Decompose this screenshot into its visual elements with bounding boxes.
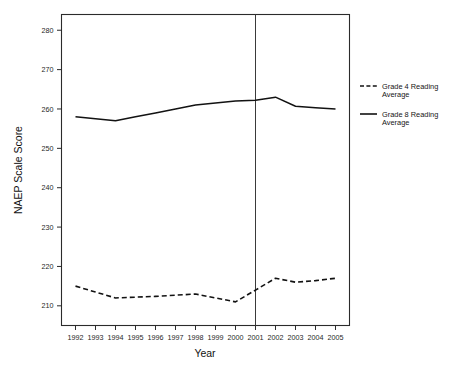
legend-label-line2: Average (382, 118, 409, 127)
y-axis-title: NAEP Scale Score (12, 126, 24, 214)
plot-frame (62, 15, 350, 326)
x-tick-label: 2005 (328, 333, 344, 342)
x-axis-title: Year (194, 347, 216, 359)
chart-container: 210220230240250260270280 199219931994199… (0, 0, 450, 372)
x-tick-label: 2004 (308, 333, 324, 342)
x-tick-label: 1998 (188, 333, 204, 342)
x-tick-label: 2002 (268, 333, 284, 342)
y-tick-label: 230 (42, 223, 54, 232)
x-tick-label: 2001 (248, 333, 264, 342)
line-chart: 210220230240250260270280 199219931994199… (0, 0, 450, 372)
y-tick-label: 210 (42, 301, 54, 310)
x-tick-label: 1992 (68, 333, 84, 342)
x-tick-label: 2003 (288, 333, 304, 342)
chart-legend: Grade 4 ReadingAverageGrade 8 ReadingAve… (360, 82, 438, 128)
series-line-grade-4 (76, 278, 336, 302)
y-axis: 210220230240250260270280 (42, 26, 62, 311)
y-tick-label: 270 (42, 65, 54, 74)
y-tick-label: 280 (42, 26, 54, 35)
data-series-group (76, 97, 336, 302)
y-tick-label: 250 (42, 144, 54, 153)
legend-label: Grade 8 Reading (382, 110, 438, 119)
series-line-grade-8 (76, 97, 336, 121)
legend-label-line2: Average (382, 90, 409, 99)
x-tick-label: 1993 (88, 333, 104, 342)
x-tick-label: 1995 (128, 333, 144, 342)
legend-label: Grade 4 Reading (382, 82, 438, 91)
y-tick-label: 240 (42, 183, 54, 192)
x-tick-label: 1997 (168, 333, 184, 342)
x-tick-label: 2000 (228, 333, 244, 342)
x-tick-label: 1994 (108, 333, 124, 342)
x-tick-label: 1999 (208, 333, 224, 342)
y-tick-label: 260 (42, 105, 54, 114)
y-tick-label: 220 (42, 262, 54, 271)
x-tick-label: 1996 (148, 333, 164, 342)
x-axis: 1992199319941995199619971998199920002001… (68, 326, 344, 343)
